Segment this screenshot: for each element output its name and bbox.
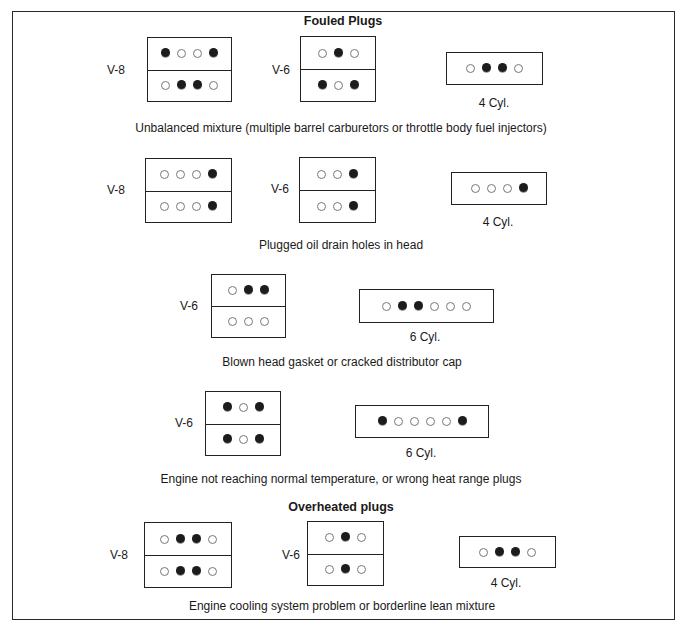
affected-plug-icon: [208, 170, 217, 179]
normal-plug-icon: [192, 202, 201, 211]
affected-plug-icon: [378, 417, 387, 426]
affected-plug-icon: [177, 81, 186, 90]
row-caption: Engine not reaching normal temperature, …: [161, 472, 522, 486]
inline6-diagram: [359, 289, 494, 323]
affected-plug-icon: [350, 81, 359, 90]
normal-plug-icon: [318, 49, 327, 58]
affected-plug-icon: [458, 417, 467, 426]
cylinder-bank-bottom: [300, 190, 375, 222]
normal-plug-icon: [487, 184, 496, 193]
clipped-footer-text: [20, 627, 680, 633]
normal-plug-icon: [514, 64, 523, 73]
engine-label-v6: V-6: [272, 63, 290, 77]
engine-label-v6: V-6: [180, 299, 198, 313]
normal-plug-icon: [325, 565, 334, 574]
v6-diagram: [300, 36, 376, 102]
cylinder-bank: [360, 290, 493, 322]
normal-plug-icon: [446, 302, 455, 311]
row-caption: Plugged oil drain holes in head: [259, 238, 423, 252]
normal-plug-icon: [503, 184, 512, 193]
affected-plug-icon: [192, 567, 201, 576]
cylinder-bank-bottom: [308, 554, 383, 586]
affected-plug-icon: [482, 64, 491, 73]
affected-plug-icon: [255, 435, 264, 444]
v6-diagram: [205, 391, 281, 456]
affected-plug-icon: [223, 435, 232, 444]
engine-label-v6: V-6: [271, 182, 289, 196]
engine-label-4cyl: 4 Cyl.: [479, 96, 510, 110]
affected-plug-icon: [161, 49, 170, 58]
engine-label-4cyl: 4 Cyl.: [491, 576, 522, 590]
affected-plug-icon: [341, 533, 350, 542]
normal-plug-icon: [176, 170, 185, 179]
affected-plug-icon: [192, 535, 201, 544]
normal-plug-icon: [462, 302, 471, 311]
inline4-diagram: [459, 536, 556, 568]
normal-plug-icon: [193, 49, 202, 58]
affected-plug-icon: [208, 202, 217, 211]
normal-plug-icon: [471, 184, 480, 193]
affected-plug-icon: [260, 286, 269, 295]
normal-plug-icon: [161, 81, 170, 90]
v6-diagram: [299, 157, 376, 223]
normal-plug-icon: [160, 535, 169, 544]
normal-plug-icon: [239, 435, 248, 444]
normal-plug-icon: [430, 302, 439, 311]
normal-plug-icon: [160, 202, 169, 211]
affected-plug-icon: [519, 184, 528, 193]
engine-label-6cyl: 6 Cyl.: [406, 446, 437, 460]
normal-plug-icon: [350, 49, 359, 58]
normal-plug-icon: [466, 64, 475, 73]
cylinder-bank-bottom: [301, 69, 375, 101]
engine-label-v8: V-8: [110, 548, 128, 562]
normal-plug-icon: [244, 317, 253, 326]
cylinder-bank-bottom: [146, 191, 231, 223]
affected-plug-icon: [334, 49, 343, 58]
cylinder-bank-top: [300, 158, 375, 191]
affected-plug-icon: [223, 403, 232, 412]
normal-plug-icon: [192, 170, 201, 179]
v6-diagram: [211, 274, 286, 338]
normal-plug-icon: [208, 535, 217, 544]
normal-plug-icon: [333, 202, 342, 211]
normal-plug-icon: [160, 567, 169, 576]
affected-plug-icon: [498, 64, 507, 73]
normal-plug-icon: [479, 548, 488, 557]
affected-plug-icon: [349, 170, 358, 179]
v8-diagram: [147, 37, 232, 102]
normal-plug-icon: [317, 202, 326, 211]
row-caption: Blown head gasket or cracked distributor…: [222, 355, 461, 369]
cylinder-bank: [460, 537, 555, 567]
cylinder-bank-top: [148, 38, 231, 71]
v6-diagram: [307, 521, 384, 586]
affected-plug-icon: [318, 81, 327, 90]
heading-overheated-plugs: Overheated plugs: [288, 500, 394, 514]
normal-plug-icon: [208, 567, 217, 576]
cylinder-bank-top: [146, 159, 231, 192]
normal-plug-icon: [228, 317, 237, 326]
affected-plug-icon: [349, 202, 358, 211]
normal-plug-icon: [177, 49, 186, 58]
normal-plug-icon: [209, 81, 218, 90]
cylinder-bank: [447, 53, 542, 84]
normal-plug-icon: [228, 286, 237, 295]
row-caption: Unbalanced mixture (multiple barrel carb…: [135, 121, 547, 135]
inline4-diagram: [446, 52, 543, 85]
affected-plug-icon: [414, 302, 423, 311]
cylinder-bank-top: [308, 522, 383, 555]
cylinder-bank-bottom: [206, 424, 280, 456]
affected-plug-icon: [255, 403, 264, 412]
normal-plug-icon: [442, 417, 451, 426]
cylinder-bank-top: [212, 275, 285, 307]
engine-label-v6: V-6: [175, 416, 193, 430]
v8-diagram: [145, 158, 232, 223]
affected-plug-icon: [398, 302, 407, 311]
affected-plug-icon: [193, 81, 202, 90]
cylinder-bank-top: [206, 392, 280, 425]
affected-plug-icon: [511, 548, 520, 557]
cylinder-bank-bottom: [145, 555, 231, 587]
normal-plug-icon: [394, 417, 403, 426]
cylinder-bank-bottom: [212, 306, 285, 337]
heading-fouled-plugs: Fouled Plugs: [304, 14, 382, 28]
engine-label-4cyl: 4 Cyl.: [483, 215, 514, 229]
